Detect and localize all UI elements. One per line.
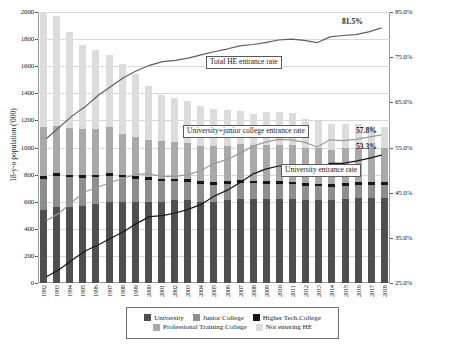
x-axis-tick-label: 1996	[92, 285, 99, 319]
legend-label: Professional Training College	[163, 323, 247, 331]
y-axis-left-tick-label: 400	[24, 225, 34, 233]
y-axis-right-tick-label: 65.0%	[395, 98, 412, 106]
legend-swatch	[153, 324, 160, 331]
legend-label: University	[154, 314, 184, 322]
line-series-layer	[38, 12, 390, 283]
legend-swatch	[144, 314, 151, 321]
y-axis-left-tick-label: 0	[31, 279, 34, 287]
figure-container: 18-y-o population ('000) 020040060080010…	[0, 0, 452, 362]
y-axis-left-tick-label: 600	[24, 198, 34, 206]
label-univ: 53.3%	[356, 142, 377, 151]
y-axis-left-tick-label: 800	[24, 171, 34, 179]
legend-label: Not entering HE	[266, 323, 312, 331]
legend-row-2: Professional Training CollegeNot enterin…	[130, 323, 335, 331]
y-axis-left-tick-label: 1000	[21, 144, 34, 152]
legend-item[interactable]: Junior College	[193, 314, 244, 322]
y-axis-right-tick	[390, 102, 393, 103]
y-axis-right-tick	[390, 148, 393, 149]
y-axis-left-tick-label: 200	[24, 252, 34, 260]
plot-area: 0200400600800100012001400160018002000 25…	[38, 12, 390, 283]
y-axis-title-wrap: 18-y-o population ('000)	[9, 145, 19, 146]
legend: UniversityJunior CollegeHigher Tech.Coll…	[126, 307, 339, 339]
x-axis-tick-label: 1998	[119, 285, 126, 319]
y-axis-right-tick-label: 45.0%	[395, 189, 412, 197]
y-axis-left-tick-label: 1600	[21, 62, 34, 70]
x-axis-tick-label: 1995	[79, 285, 86, 319]
y-axis-right-tick-label: 35.0%	[395, 234, 412, 242]
y-axis-right-tick-label: 25.0%	[395, 279, 412, 287]
y-axis-left-tick-label: 1200	[21, 116, 34, 124]
x-axis-tick-label: 2016	[355, 285, 362, 319]
y-axis-right-tick-label: 55.0%	[395, 144, 412, 152]
legend-swatch	[193, 314, 200, 321]
callout-total-he-label: Total HE entrance rate	[206, 56, 282, 69]
legend-item[interactable]: Not entering HE	[256, 323, 312, 331]
legend-swatch	[256, 324, 263, 331]
line-series	[46, 135, 381, 221]
y-axis-right-tick	[390, 283, 393, 284]
y-axis-right-tick	[390, 12, 393, 13]
label-univ-jc: 57.8%	[356, 126, 377, 135]
y-axis-right-tick	[390, 238, 393, 239]
y-axis-title: 18-y-o population ('000)	[9, 109, 18, 182]
legend-item[interactable]: Higher Tech.College	[253, 314, 321, 322]
x-axis-tick-label: 2018	[381, 285, 388, 319]
x-axis-tick-label: 1993	[53, 285, 60, 319]
y-axis-right-tick-label: 75.0%	[395, 53, 412, 61]
callout-univ-label: University entrance rate	[281, 164, 361, 177]
callout-univ-jc-label: University+junior college entrance rate	[183, 125, 309, 138]
legend-label: Junior College	[203, 314, 244, 322]
legend-item[interactable]: University	[144, 314, 184, 322]
x-axis-tick-label: 2015	[342, 285, 349, 319]
legend-item[interactable]: Professional Training College	[153, 323, 247, 331]
legend-label: Higher Tech.College	[263, 314, 321, 322]
y-axis-left-tick-label: 1800	[21, 35, 34, 43]
x-axis-tick-label: 2017	[368, 285, 375, 319]
x-axis-tick-label: 1994	[66, 285, 73, 319]
y-axis-left-tick-label: 2000	[21, 8, 34, 16]
legend-row-1: UniversityJunior CollegeHigher Tech.Coll…	[130, 314, 335, 322]
x-axis-tick-label: 1992	[40, 285, 47, 319]
y-axis-right-tick	[390, 193, 393, 194]
y-axis-right-tick	[390, 57, 393, 58]
y-axis-left-tick-label: 1400	[21, 89, 34, 97]
label-total-he: 81.5%	[342, 17, 363, 26]
y-axis-left-tick	[35, 283, 38, 284]
line-series	[46, 28, 381, 139]
legend-swatch	[253, 314, 260, 321]
x-axis-tick-label: 1997	[106, 285, 113, 319]
y-axis-right-tick-label: 85.0%	[395, 8, 412, 16]
